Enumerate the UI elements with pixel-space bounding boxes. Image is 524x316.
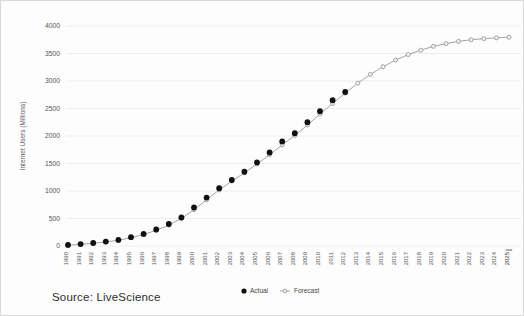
x-tick-label-1990: 1990 (63, 251, 69, 265)
x-tick-label-2015: 2015 (378, 251, 384, 265)
legend-forecast-label: Forecast (294, 287, 319, 294)
actual-point-2012 (342, 89, 348, 95)
x-tick-label-2003: 2003 (227, 251, 233, 265)
x-tick-label-1992: 1992 (88, 251, 94, 265)
legend-actual-marker (241, 288, 246, 293)
actual-point-2006 (267, 150, 273, 156)
x-tick-label-2016: 2016 (391, 251, 397, 265)
actual-point-1998 (166, 221, 172, 227)
x-tick-label-2020: 2020 (441, 251, 447, 265)
x-tick-label-2011: 2011 (328, 251, 334, 265)
x-tick-label-2008: 2008 (290, 251, 296, 265)
x-tick-label-2000: 2000 (189, 251, 195, 265)
x-tick-label-1995: 1995 (126, 251, 132, 265)
x-tick-label-2005: 2005 (252, 251, 258, 265)
x-tick-label-2018: 2018 (416, 251, 422, 265)
x-tick-label-2006: 2006 (265, 251, 271, 265)
internet-users-line-chart: 05001000150020002500300035004000Internet… (1, 1, 524, 316)
legend-actual-label: Actual (250, 287, 269, 294)
actual-point-2003 (229, 177, 235, 183)
actual-point-1992 (90, 240, 96, 246)
x-tick-label-2021: 2021 (454, 251, 460, 265)
forecast-point-2016 (394, 58, 398, 62)
y-tick-label: 0 (56, 242, 60, 249)
x-tick-label-2013: 2013 (353, 251, 359, 265)
y-tick-label: 1000 (45, 187, 60, 194)
actual-point-1996 (141, 231, 147, 237)
y-tick-label: 4000 (45, 22, 60, 29)
forecast-point-2021 (457, 39, 461, 43)
x-tick-label-2014: 2014 (365, 251, 371, 265)
forecast-line (68, 37, 509, 245)
x-tick-label-2010: 2010 (315, 251, 321, 265)
x-tick-label-2009: 2009 (302, 251, 308, 265)
forecast-point-2018 (419, 48, 423, 52)
x-tick-label-2022: 2022 (466, 251, 472, 265)
forecast-point-2017 (406, 53, 410, 57)
actual-point-2005 (254, 160, 260, 166)
actual-point-2004 (242, 169, 248, 175)
actual-point-2001 (204, 195, 210, 201)
y-tick-label: 2500 (45, 105, 60, 112)
x-tick-label-2017: 2017 (403, 251, 409, 265)
actual-point-1995 (128, 234, 134, 240)
forecast-point-2022 (469, 38, 473, 42)
forecast-point-2014 (368, 72, 372, 76)
x-tick-label-2024: 2024 (491, 251, 497, 265)
actual-point-2007 (279, 139, 285, 145)
chart-figure: 05001000150020002500300035004000Internet… (0, 0, 524, 316)
actual-point-1994 (116, 237, 122, 243)
x-tick-label-2012: 2012 (340, 251, 346, 265)
x-tick-label-1998: 1998 (164, 251, 170, 265)
forecast-point-2019 (431, 44, 435, 48)
actual-point-2008 (292, 130, 298, 136)
actual-point-1999 (179, 215, 185, 221)
y-tick-label: 1500 (45, 160, 60, 167)
actual-point-2009 (305, 119, 311, 125)
forecast-point-2025 (507, 35, 511, 39)
x-tick-label-2004: 2004 (239, 251, 245, 265)
actual-point-1993 (103, 239, 109, 245)
actual-point-1990 (65, 242, 71, 248)
y-axis-title: Internet Users (Millions) (19, 102, 27, 171)
legend-forecast-marker (283, 289, 287, 293)
x-tick-label-2001: 2001 (202, 251, 208, 265)
y-tick-label: 2000 (45, 132, 60, 139)
x-tick-label-1999: 1999 (176, 251, 182, 265)
forecast-point-2023 (482, 37, 486, 41)
actual-point-1991 (78, 241, 84, 247)
forecast-point-2024 (494, 36, 498, 40)
x-tick-label-2025: 2025 (504, 251, 510, 265)
actual-point-2000 (191, 205, 197, 211)
x-tick-label-1996: 1996 (139, 251, 145, 265)
x-tick-label-2019: 2019 (428, 251, 434, 265)
y-tick-label: 3500 (45, 50, 60, 57)
forecast-point-2020 (444, 42, 448, 46)
x-tick-label-1991: 1991 (76, 251, 82, 265)
x-tick-label-1994: 1994 (113, 251, 119, 265)
x-tick-label-1997: 1997 (151, 251, 157, 265)
x-tick-label-2002: 2002 (214, 251, 220, 265)
y-tick-label: 500 (49, 215, 61, 222)
actual-point-2002 (216, 185, 222, 191)
forecast-point-2013 (356, 81, 360, 85)
actual-point-1997 (153, 227, 159, 233)
actual-point-2011 (330, 97, 336, 103)
x-tick-label-2007: 2007 (277, 251, 283, 265)
x-tick-label-1993: 1993 (101, 251, 107, 265)
forecast-point-2015 (381, 65, 385, 69)
y-tick-label: 3000 (45, 77, 60, 84)
x-tick-label-2023: 2023 (479, 251, 485, 265)
source-caption: Source: LiveScience (52, 291, 161, 303)
actual-point-2010 (317, 108, 323, 114)
